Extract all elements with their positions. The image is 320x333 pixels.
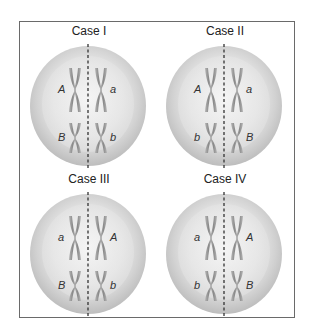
allele-bottom-right: B xyxy=(246,279,253,291)
allele-top-right: a xyxy=(246,83,252,95)
allele-top-left: a xyxy=(58,231,64,243)
allele-bottom-left: b xyxy=(194,279,200,291)
case-panel-2: Case II A a b B xyxy=(156,22,294,170)
allele-bottom-right: b xyxy=(110,131,116,143)
case-panel-3: Case III a A B b xyxy=(20,170,158,318)
case-title: Case III xyxy=(20,172,158,186)
allele-bottom-left: B xyxy=(58,131,65,143)
case-title: Case II xyxy=(156,24,294,38)
allele-bottom-left: b xyxy=(194,131,200,143)
allele-top-left: a xyxy=(194,231,200,243)
allele-bottom-left: B xyxy=(58,279,65,291)
cell-illustration xyxy=(20,22,158,170)
allele-top-right: a xyxy=(110,83,116,95)
allele-top-left: A xyxy=(58,83,65,95)
case-panel-1: Case I A a B b xyxy=(20,22,158,170)
case-title: Case I xyxy=(20,24,158,38)
allele-top-left: A xyxy=(194,83,201,95)
allele-top-right: A xyxy=(110,231,117,243)
cell-illustration xyxy=(156,170,294,318)
case-panel-4: Case IV a A b B xyxy=(156,170,294,318)
allele-bottom-right: B xyxy=(246,131,253,143)
cell-illustration xyxy=(20,170,158,318)
allele-bottom-right: b xyxy=(110,279,116,291)
allele-top-right: A xyxy=(246,231,253,243)
cell-illustration xyxy=(156,22,294,170)
case-title: Case IV xyxy=(156,172,294,186)
